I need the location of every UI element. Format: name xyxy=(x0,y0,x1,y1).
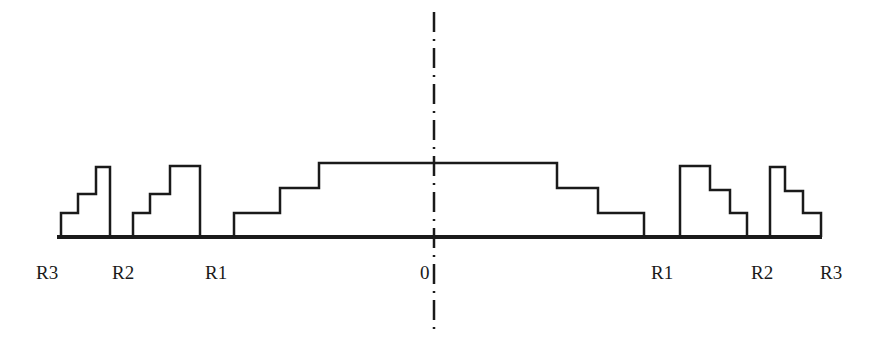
label-left-r3: R3 xyxy=(36,262,58,284)
label-right-r3: R3 xyxy=(820,262,842,284)
label-right-r2: R2 xyxy=(751,262,773,284)
left-middle-steps xyxy=(133,166,200,237)
right-middle-steps xyxy=(680,166,747,237)
label-left-r2: R2 xyxy=(112,262,134,284)
label-axis-zero: 0 xyxy=(420,262,430,284)
central-steps xyxy=(234,163,644,237)
left-outer-steps xyxy=(61,167,110,237)
profile-diagram xyxy=(0,0,883,349)
label-left-r1: R1 xyxy=(205,262,227,284)
label-right-r1: R1 xyxy=(651,262,673,284)
right-outer-steps xyxy=(770,167,821,237)
